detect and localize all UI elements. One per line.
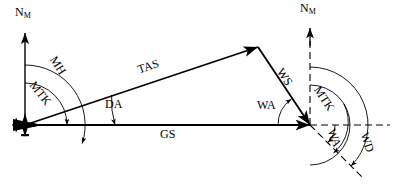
- wd-arc: [310, 67, 368, 166]
- wa-left-arc: [278, 99, 292, 125]
- gs-label: GS: [160, 128, 175, 140]
- wind-triangle-diagram: NM NM MH MTK TAS DA GS WS WA MTK WA WD: [0, 0, 397, 189]
- north-magnetic-right-label: NM: [300, 2, 316, 16]
- da-label: DA: [105, 98, 122, 110]
- mh-arc: [25, 65, 85, 144]
- diagram-canvas: [0, 0, 397, 189]
- north-magnetic-left-label: NM: [15, 6, 31, 20]
- aircraft-icon: [12, 113, 38, 137]
- wa-left-label: WA: [257, 99, 276, 111]
